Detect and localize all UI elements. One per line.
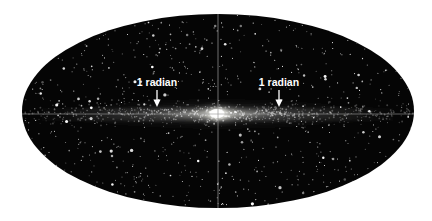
- all-sky-star-map-figure: 1 radian 1 radian: [0, 0, 432, 221]
- annotation-label-left: 1 radian: [137, 76, 177, 88]
- sky-projection-svg: 1 radian 1 radian: [0, 0, 432, 221]
- annotation-label-right: 1 radian: [259, 76, 299, 88]
